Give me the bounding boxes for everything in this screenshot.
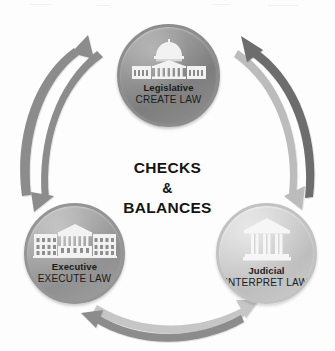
node-judicial-title: Judicial <box>248 265 284 276</box>
node-legislative[interactable]: Legislative CREATE LAW <box>117 24 220 127</box>
center-label-line-1: CHECKS <box>112 158 223 178</box>
arrow-judicial-to-legislative <box>241 36 314 198</box>
checks-and-balances-diagram: Legislative CREATE LAW <box>0 0 335 351</box>
center-label-line-3: BALANCES <box>112 198 223 218</box>
center-label: CHECKS & BALANCES <box>112 158 223 218</box>
capitol-building-icon <box>131 39 207 79</box>
node-judicial[interactable]: Judicial INTERPRET LAW <box>216 203 317 304</box>
node-executive-title: Executive <box>52 261 97 272</box>
node-judicial-subtitle: INTERPRET LAW <box>225 277 308 288</box>
arrow-legislative-to-executive <box>31 51 103 212</box>
center-label-line-2: & <box>112 178 223 198</box>
node-legislative-subtitle: CREATE LAW <box>136 94 202 105</box>
white-house-icon <box>33 224 117 258</box>
node-legislative-title: Legislative <box>143 82 193 93</box>
courthouse-icon <box>242 216 292 262</box>
node-executive-subtitle: EXECUTE LAW <box>38 273 112 284</box>
arrow-legislative-to-judicial <box>234 50 305 210</box>
node-executive[interactable]: Executive EXECUTE LAW <box>24 203 125 304</box>
